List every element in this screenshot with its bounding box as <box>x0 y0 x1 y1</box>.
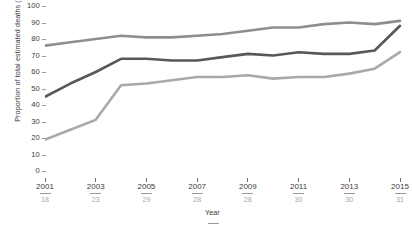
line-chart: Proportion of total estimated deaths (%)… <box>0 0 412 232</box>
x-tick-group: 201531 <box>380 178 412 204</box>
x-tick-rule <box>141 193 152 194</box>
x-tick-label: 2005 <box>126 183 166 191</box>
x-tick-sublabel: 31 <box>380 196 412 203</box>
x-axis-title-rule <box>208 223 219 224</box>
x-tick-sublabel: 28 <box>228 196 268 203</box>
x-tick-label: 2009 <box>228 183 268 191</box>
x-tick-sublabel: 30 <box>329 196 369 203</box>
x-tick-rule <box>293 193 304 194</box>
x-axis-ticks: 2001182003232005292007282009282011302013… <box>0 0 412 232</box>
x-tick-sublabel: 18 <box>25 196 65 203</box>
x-tick-label: 2015 <box>380 183 412 191</box>
x-tick-group: 201330 <box>329 178 369 204</box>
x-tick-sublabel: 30 <box>279 196 319 203</box>
x-tick-rule <box>242 193 253 194</box>
x-tick-label: 2003 <box>76 183 116 191</box>
x-tick-rule <box>395 193 406 194</box>
x-tick-sublabel: 23 <box>76 196 116 203</box>
x-tick-sublabel: 28 <box>177 196 217 203</box>
x-tick-rule <box>90 193 101 194</box>
x-tick-group: 200118 <box>25 178 65 204</box>
x-tick-rule <box>344 193 355 194</box>
x-tick-group: 200728 <box>177 178 217 204</box>
x-tick-group: 201130 <box>279 178 319 204</box>
x-tick-label: 2013 <box>329 183 369 191</box>
x-tick-sublabel: 29 <box>126 196 166 203</box>
x-tick-group: 200928 <box>228 178 268 204</box>
x-tick-rule <box>40 193 51 194</box>
x-tick-group: 200323 <box>76 178 116 204</box>
x-tick-label: 2001 <box>25 183 65 191</box>
x-tick-label: 2011 <box>279 183 319 191</box>
x-tick-label: 2007 <box>177 183 217 191</box>
x-axis-title: Year <box>205 208 220 217</box>
x-tick-rule <box>192 193 203 194</box>
x-tick-group: 200529 <box>126 178 166 204</box>
